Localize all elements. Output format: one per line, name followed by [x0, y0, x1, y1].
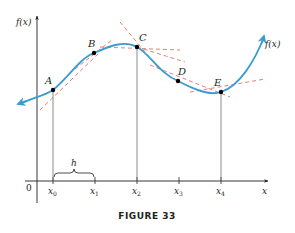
figure-33-diagram: A B C D E f(x) f(x) x 0 x0 x1 x2 x3 x4 h… [0, 0, 295, 233]
point-label-d: D [177, 66, 186, 77]
x-tick-labels: x0 x1 x2 x3 x4 [48, 186, 225, 197]
svg-text:x3: x3 [174, 186, 183, 197]
vertical-guide-lines [53, 47, 221, 181]
point-label-c: C [139, 32, 147, 43]
svg-text:x0: x0 [48, 186, 57, 197]
curve-right-arrow [262, 36, 264, 43]
svg-text:x2: x2 [132, 186, 141, 197]
point-label-b: B [87, 38, 95, 49]
point-b [92, 51, 96, 55]
svg-text:x1: x1 [90, 186, 99, 197]
step-label-h: h [71, 158, 77, 168]
x-axis-label: x [262, 186, 267, 196]
point-d [176, 79, 180, 83]
figure-caption: FIGURE 33 [118, 211, 175, 221]
step-brace [54, 169, 94, 177]
curve-label: f(x) [264, 39, 281, 49]
origin-label: 0 [26, 183, 32, 193]
point-a [51, 88, 55, 92]
point-e [219, 90, 223, 94]
tangent-lines [40, 22, 265, 110]
y-axis-label: f(x) [15, 17, 32, 27]
point-label-e: E [213, 77, 222, 88]
point-c [135, 45, 139, 49]
point-label-a: A [44, 75, 52, 86]
svg-text:x4: x4 [216, 186, 225, 197]
